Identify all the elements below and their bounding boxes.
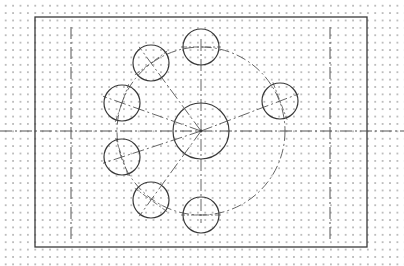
radial-centerline (139, 131, 201, 216)
radial-centerline (103, 131, 201, 163)
hole-cross-mark (116, 138, 129, 176)
drawing-canvas[interactable] (0, 0, 404, 266)
radial-centerline (139, 47, 201, 131)
hole-cross-mark (135, 51, 167, 75)
hole-cross-mark (273, 82, 287, 119)
center-point (200, 130, 203, 133)
cad-drawing (0, 0, 404, 266)
hole-cross-mark (115, 84, 128, 122)
hole-cross-mark (135, 188, 167, 211)
